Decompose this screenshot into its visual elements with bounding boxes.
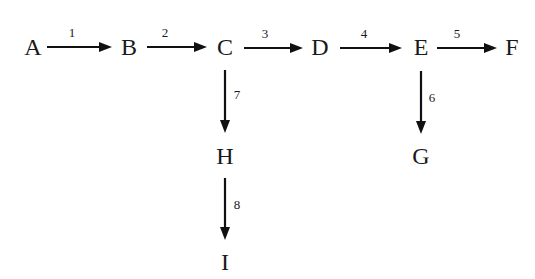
edge-b-c: 2 [147, 25, 207, 52]
arrowhead-icon [194, 42, 207, 52]
node-i: I [221, 249, 229, 275]
edge-c-h: 7 [220, 70, 241, 133]
edge-a-b: 1 [47, 25, 112, 52]
edge-label: 2 [162, 25, 169, 40]
nodes-group: ABCDEFGHI [24, 34, 518, 275]
edges-group: 12345678 [47, 25, 497, 240]
edge-label: 1 [69, 25, 76, 40]
edge-label: 6 [429, 90, 436, 105]
node-a: A [24, 34, 42, 60]
edge-h-i: 8 [220, 178, 240, 240]
edge-c-d: 3 [244, 26, 303, 53]
edge-e-g: 6 [416, 71, 436, 134]
arrowhead-icon [220, 227, 230, 240]
node-e: E [414, 34, 429, 60]
arrowhead-icon [484, 43, 497, 53]
node-f: F [505, 34, 518, 60]
edge-label: 3 [262, 26, 269, 41]
edge-label: 8 [234, 197, 241, 212]
node-b: B [121, 34, 137, 60]
arrowhead-icon [220, 120, 230, 133]
edge-label: 5 [454, 26, 461, 41]
arrowhead-icon [416, 121, 426, 134]
edge-label: 4 [361, 26, 368, 41]
edge-label: 7 [234, 87, 241, 102]
arrowhead-icon [99, 42, 112, 52]
edge-d-e: 4 [340, 26, 402, 53]
arrowhead-icon [389, 43, 402, 53]
node-d: D [311, 34, 328, 60]
node-g: G [412, 143, 429, 169]
arrowhead-icon [290, 43, 303, 53]
node-h: H [216, 143, 233, 169]
flow-diagram: 12345678 ABCDEFGHI [0, 0, 535, 279]
edge-e-f: 5 [437, 26, 497, 53]
node-c: C [217, 34, 233, 60]
